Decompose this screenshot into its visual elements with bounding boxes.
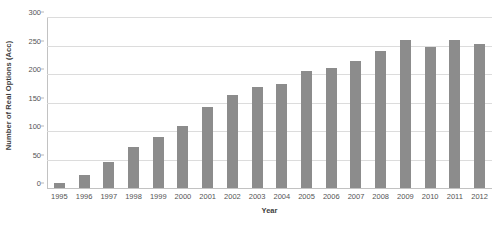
x-axis-tick-label: 2006: [319, 192, 344, 206]
bar-slot: [418, 17, 443, 188]
x-axis-tick-label: 2008: [368, 192, 393, 206]
x-axis-tick-label: 2012: [467, 192, 492, 206]
bar: [54, 183, 65, 188]
bar: [252, 87, 263, 188]
x-axis-tick-label: 1995: [47, 192, 72, 206]
bar-slot: [195, 17, 220, 188]
bar: [301, 71, 312, 188]
bar: [202, 107, 213, 188]
x-axis-tick-label: 2009: [393, 192, 418, 206]
bar-slot: [245, 17, 270, 188]
x-axis-tick-label: 2011: [443, 192, 468, 206]
plot-area: [47, 17, 492, 188]
y-axis-tick-mark: [41, 126, 44, 127]
bar: [79, 175, 90, 188]
x-axis-title: Year: [47, 206, 492, 215]
x-axis-tick-label: 2003: [245, 192, 270, 206]
bar-slot: [467, 17, 492, 188]
y-axis-title-label: Number of Real Options (Acc): [5, 40, 14, 149]
bar-slot: [368, 17, 393, 188]
bar: [474, 44, 485, 188]
bar-slot: [393, 17, 418, 188]
x-axis-tick-label: 1999: [146, 192, 171, 206]
bar-slot: [47, 17, 72, 188]
y-axis-tick-labels: 050100150200250300: [18, 12, 44, 188]
y-axis-tick-label: 250: [28, 36, 41, 45]
x-axis-tick-labels: 1995199619971998199920002001200220032004…: [47, 192, 492, 206]
x-axis-tick-label: 1996: [72, 192, 97, 206]
y-axis-title: Number of Real Options (Acc): [0, 0, 18, 190]
y-axis-tick-label: 200: [28, 65, 41, 74]
bar: [177, 126, 188, 188]
bar: [153, 137, 164, 188]
y-axis-tick-label: 50: [33, 150, 41, 159]
bar: [400, 40, 411, 188]
y-axis-tick-mark: [41, 183, 44, 184]
x-axis-tick-label: 2010: [418, 192, 443, 206]
bar: [350, 61, 361, 188]
x-axis-tick-label: 2002: [220, 192, 245, 206]
y-axis-tick-mark: [41, 40, 44, 41]
y-axis-tick-label: 100: [28, 122, 41, 131]
y-axis-tick-mark: [41, 97, 44, 98]
bar-series: [47, 17, 492, 188]
bar-slot: [72, 17, 97, 188]
bar-slot: [146, 17, 171, 188]
bar: [103, 162, 114, 188]
bar: [449, 40, 460, 188]
x-axis-tick-label: 1998: [121, 192, 146, 206]
bar: [276, 84, 287, 188]
y-axis-tick-label: 150: [28, 93, 41, 102]
y-axis-tick-mark: [41, 154, 44, 155]
x-axis-tick-label: 2005: [294, 192, 319, 206]
bar-slot: [344, 17, 369, 188]
bar: [128, 147, 139, 188]
y-axis-tick-label: 300: [28, 8, 41, 17]
y-axis-tick-mark: [41, 12, 44, 13]
bar-slot: [319, 17, 344, 188]
x-axis-tick-label: 2001: [195, 192, 220, 206]
y-axis-tick-mark: [41, 69, 44, 70]
bar: [425, 47, 436, 188]
bar-slot: [121, 17, 146, 188]
bar: [227, 95, 238, 188]
x-axis-tick-label: 2004: [269, 192, 294, 206]
bar-slot: [96, 17, 121, 188]
x-axis-tick-label: 2007: [344, 192, 369, 206]
bar-slot: [171, 17, 196, 188]
bar-chart-figure: Number of Real Options (Acc) 05010015020…: [0, 0, 499, 229]
x-axis-tick-label: 2000: [171, 192, 196, 206]
bar-slot: [220, 17, 245, 188]
bar: [375, 51, 386, 188]
axis-baseline: [47, 188, 492, 189]
bar: [326, 68, 337, 188]
bar-slot: [443, 17, 468, 188]
x-axis-tick-label: 1997: [96, 192, 121, 206]
bar-slot: [269, 17, 294, 188]
bar-slot: [294, 17, 319, 188]
